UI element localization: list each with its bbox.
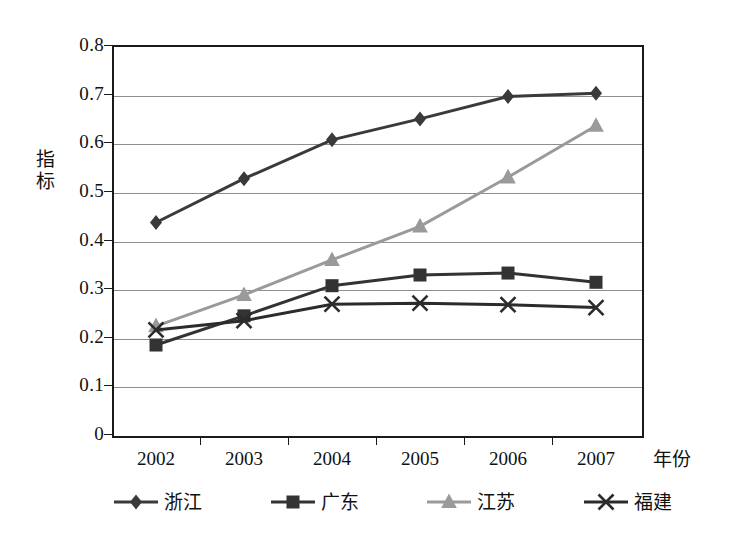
y-axis-tick-mark: [104, 191, 112, 192]
x-axis-tick-mark: [464, 436, 465, 445]
x-axis-tick-mark: [552, 436, 553, 445]
x-axis-tick-mark: [200, 436, 201, 445]
gridline: [114, 96, 642, 97]
y-axis-tick-mark: [104, 142, 112, 143]
legend-marker-square-icon: [269, 492, 317, 512]
line-chart: 指标 00.10.20.30.40.50.60.70.8 年份 浙江广东江苏福建…: [0, 0, 730, 549]
gridline: [114, 387, 642, 388]
y-axis-tick-mark: [104, 385, 112, 386]
y-axis-tick-labels: 00.10.20.30.40.50.60.70.8: [52, 45, 104, 434]
x-axis-tick-label: 2007: [556, 448, 636, 470]
y-axis-tick-mark: [104, 94, 112, 95]
x-axis-tick-label: 2006: [468, 448, 548, 470]
y-axis-tick-label: 0.1: [58, 375, 104, 394]
y-axis-tick-mark: [104, 434, 112, 435]
plot-area: [112, 45, 644, 438]
legend-marker-diamond-icon: [112, 492, 160, 512]
x-axis-tick-mark: [376, 436, 377, 445]
y-axis-tick-label: 0.6: [58, 132, 104, 151]
x-axis-tick-mark: [288, 436, 289, 445]
y-axis-tick-label: 0: [58, 424, 104, 443]
y-axis-tick-label: 0.5: [58, 181, 104, 200]
gridline: [114, 242, 642, 243]
x-axis-title: 年份: [653, 448, 691, 470]
gridline: [114, 144, 642, 145]
y-axis-tick-label: 0.2: [58, 327, 104, 346]
y-axis-tick-label: 0.3: [58, 278, 104, 297]
legend-label: 广东: [321, 491, 359, 513]
legend-item-4[interactable]: 福建: [582, 491, 672, 513]
y-axis-tick-label: 0.4: [58, 230, 104, 249]
y-axis-tick-label: 0.7: [58, 84, 104, 103]
legend-label: 浙江: [164, 491, 202, 513]
y-axis-tick-label: 0.8: [58, 35, 104, 54]
x-axis-tick-label: 2005: [380, 448, 460, 470]
x-axis-tick-label: 2002: [116, 448, 196, 470]
legend-item-3[interactable]: 江苏: [425, 491, 515, 513]
legend-item-2[interactable]: 广东: [269, 491, 359, 513]
y-axis-tick-mark: [104, 288, 112, 289]
legend-marker-cross-icon: [582, 492, 630, 512]
y-axis-tick-mark: [104, 240, 112, 241]
legend: 浙江广东江苏福建: [112, 487, 672, 517]
y-axis-tick-mark: [104, 337, 112, 338]
legend-item-1[interactable]: 浙江: [112, 491, 202, 513]
legend-marker-triangle-icon: [425, 492, 473, 512]
gridline: [114, 339, 642, 340]
legend-label: 江苏: [477, 491, 515, 513]
legend-label: 福建: [634, 491, 672, 513]
y-axis-tick-mark: [104, 45, 112, 46]
gridline: [114, 193, 642, 194]
x-axis-tick-label: 2003: [204, 448, 284, 470]
gridline: [114, 290, 642, 291]
x-axis-tick-label: 2004: [292, 448, 372, 470]
